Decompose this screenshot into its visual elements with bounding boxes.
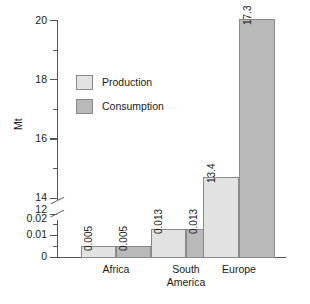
y-tick-minor	[53, 109, 57, 110]
bar-consumption-europe	[239, 19, 275, 258]
category-line: Africa	[86, 263, 146, 276]
y-tick-label: 18	[35, 74, 47, 85]
legend-swatch-consumption	[76, 99, 93, 114]
y-tick-major	[50, 20, 57, 21]
bar-value-label: 0.013	[153, 209, 164, 234]
y-tick-minor	[53, 224, 57, 225]
y-tick-label: 0.02	[27, 213, 47, 224]
legend: Production Consumption	[76, 72, 164, 120]
y-tick-major	[50, 138, 57, 139]
y-tick-label: 0.01	[27, 229, 47, 240]
y-tick-major	[50, 198, 57, 199]
y-tick-minor	[53, 50, 57, 51]
y-tick-minor	[53, 168, 57, 169]
x-category-label-south-america: South America	[156, 263, 216, 288]
x-category-label-europe: Europe	[209, 263, 269, 276]
bar-value-label: 0.005	[118, 226, 129, 251]
y-tick-minor	[53, 246, 57, 247]
category-line: America	[156, 276, 216, 289]
bar-production-europe	[203, 177, 239, 258]
y-tick-label: 20	[35, 15, 47, 26]
y-tick-label: 14	[35, 192, 47, 203]
bar-chart: Mt 20 18 16 14 12 0.02 0.01 0 0.005 0.00…	[0, 0, 310, 304]
y-tick-major	[50, 79, 57, 80]
legend-swatch-production	[76, 75, 93, 90]
category-line: South	[156, 263, 216, 276]
y-tick-major	[50, 235, 57, 236]
y-tick-label: 0	[41, 251, 47, 262]
y-axis-line	[57, 20, 58, 257]
legend-label: Consumption	[102, 100, 164, 112]
bar-value-label: 13.4	[206, 164, 217, 183]
y-tick-major	[50, 214, 57, 215]
legend-label: Production	[102, 76, 152, 88]
bar-value-label: 0.013	[188, 209, 199, 234]
bar-value-label: 0.005	[83, 226, 94, 251]
y-axis-title: Mt	[12, 118, 24, 130]
y-tick-label: 16	[35, 133, 47, 144]
legend-item-consumption: Consumption	[76, 96, 164, 116]
bar-value-label: 17.3	[242, 6, 253, 25]
x-category-label-africa: Africa	[86, 263, 146, 276]
axis-break-marker	[48, 200, 68, 220]
category-line: Europe	[209, 263, 269, 276]
legend-item-production: Production	[76, 72, 164, 92]
y-tick-major	[50, 257, 57, 258]
